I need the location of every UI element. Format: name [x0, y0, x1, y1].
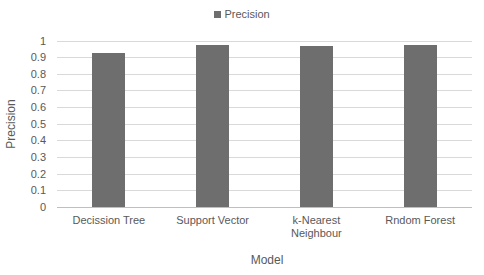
bar-rndom-forest [404, 45, 437, 207]
y-tick-label: 0.8 [31, 68, 46, 80]
legend-swatch-precision [214, 11, 221, 18]
y-tick-label: 0.5 [31, 118, 46, 130]
y-tick-label: 0.3 [31, 151, 46, 163]
y-tick-label: 0.1 [31, 184, 46, 196]
x-tick-label: Rndom Forest [368, 214, 472, 227]
y-tick-label: 0.7 [31, 84, 46, 96]
x-tick-label-line: Decission Tree [57, 214, 161, 227]
x-axis-line [57, 207, 472, 208]
y-tick-label: 0.9 [31, 51, 46, 63]
x-tick-label-line: Rndom Forest [368, 214, 472, 227]
bar-support-vector [196, 45, 229, 207]
y-tick-label: 0.4 [31, 134, 46, 146]
y-tick-label: 0 [40, 201, 46, 213]
x-tick-label: Support Vector [161, 214, 265, 227]
y-tick-label: 0.6 [31, 101, 46, 113]
gridline [57, 41, 472, 42]
x-tick-label: Decission Tree [57, 214, 161, 227]
x-tick-label-line: Neighbour [264, 227, 368, 240]
bar-decission-tree [92, 53, 125, 207]
y-tick-label: 0.2 [31, 168, 46, 180]
y-axis-title-text: Precision [4, 99, 18, 148]
x-tick-label-line: Support Vector [161, 214, 265, 227]
x-tick-label-line: k-Nearest [264, 214, 368, 227]
legend: Precision [0, 7, 484, 21]
legend-label: Precision [224, 8, 269, 20]
bar-k-nearest-neighbour [300, 46, 333, 207]
x-tick-label: k-NearestNeighbour [264, 214, 368, 240]
y-tick-label: 1 [40, 35, 46, 47]
x-axis-title: Model [0, 253, 484, 267]
